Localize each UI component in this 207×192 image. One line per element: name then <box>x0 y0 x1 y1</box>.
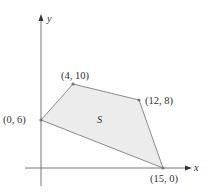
feasible-region-diagram: y x S (0, 6) (4, 10) (12, 8) (15, 0) <box>0 0 207 192</box>
vertex-label: (12, 8) <box>145 95 173 107</box>
y-axis-arrow-icon <box>39 14 44 21</box>
x-axis-label: x <box>193 162 199 173</box>
vertex-12-8 <box>137 98 140 101</box>
vertex-label: (15, 0) <box>150 173 178 185</box>
vertex-15-0 <box>161 166 164 169</box>
vertex-label: (0, 6) <box>3 114 26 126</box>
y-axis-label: y <box>46 13 52 24</box>
vertex-0-6 <box>39 118 42 121</box>
region-label: S <box>97 114 103 125</box>
x-axis-arrow-icon <box>185 166 192 171</box>
vertex-4-10 <box>71 82 74 85</box>
vertex-label: (4, 10) <box>61 70 89 82</box>
